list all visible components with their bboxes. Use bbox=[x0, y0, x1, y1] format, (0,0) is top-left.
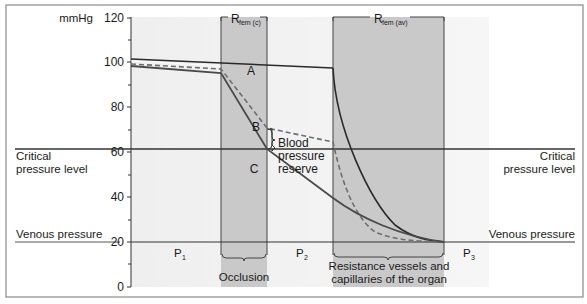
venous-label-right: Venous pressure bbox=[489, 228, 575, 240]
svg-text:pressure level: pressure level bbox=[503, 163, 575, 175]
svg-text:1: 1 bbox=[182, 254, 186, 261]
svg-text:reserve: reserve bbox=[278, 162, 318, 176]
svg-text:Blood: Blood bbox=[278, 136, 309, 150]
occlusion-band bbox=[221, 17, 267, 287]
svg-text:Critical: Critical bbox=[16, 150, 51, 162]
svg-text:Resistance vessels and: Resistance vessels and bbox=[329, 260, 450, 272]
point-c-label: C bbox=[250, 162, 259, 176]
svg-text:pressure: pressure bbox=[278, 149, 325, 163]
svg-text:capillaries of the organ: capillaries of the organ bbox=[331, 273, 447, 285]
y-tick-100: 100 bbox=[104, 55, 124, 69]
y-tick-80: 80 bbox=[111, 100, 125, 114]
svg-text:P: P bbox=[174, 247, 182, 259]
svg-text:pressure level: pressure level bbox=[16, 163, 88, 175]
y-axis-unit: mmHg bbox=[59, 12, 93, 24]
svg-text:Critical: Critical bbox=[540, 150, 575, 162]
organ-band bbox=[333, 17, 444, 287]
venous-label-left: Venous pressure bbox=[16, 228, 102, 240]
svg-text:3: 3 bbox=[471, 254, 475, 261]
y-tick-120: 120 bbox=[104, 11, 124, 25]
svg-text:fem (c): fem (c) bbox=[239, 19, 261, 27]
svg-text:fem (av): fem (av) bbox=[382, 19, 408, 27]
occlusion-label: Occlusion bbox=[219, 271, 270, 283]
point-a-label: A bbox=[247, 64, 255, 78]
y-tick-20: 20 bbox=[111, 235, 125, 249]
blood-pressure-diagram: 120 100 80 60 40 20 0 mmHg A B C Blood p… bbox=[0, 0, 587, 304]
organ-region-label: Resistance vessels and capillaries of th… bbox=[329, 260, 450, 285]
diagram-stage: 120 100 80 60 40 20 0 mmHg A B C Blood p… bbox=[0, 0, 587, 304]
point-b-label: B bbox=[252, 120, 260, 134]
y-tick-0: 0 bbox=[117, 280, 124, 294]
svg-text:2: 2 bbox=[304, 254, 308, 261]
y-tick-40: 40 bbox=[111, 190, 125, 204]
svg-text:P: P bbox=[463, 247, 471, 259]
y-tick-60: 60 bbox=[111, 145, 125, 159]
svg-text:P: P bbox=[296, 247, 304, 259]
